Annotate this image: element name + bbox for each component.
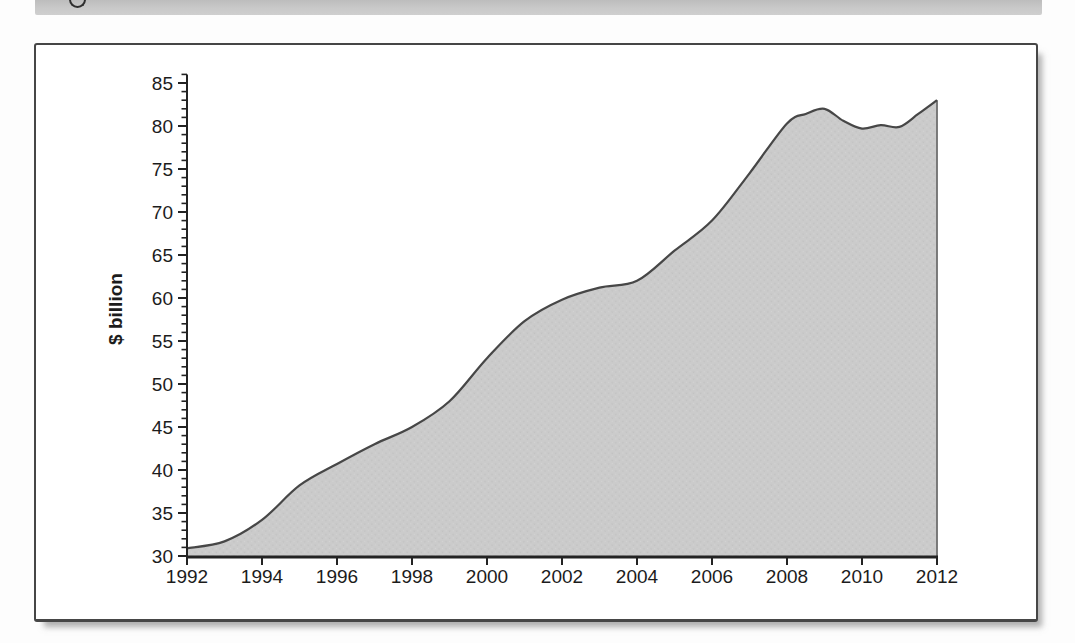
y-tick-label: 45 (152, 417, 173, 438)
area-fill (187, 100, 937, 556)
x-tick-label: 2004 (616, 566, 659, 587)
x-tick-label: 1996 (316, 566, 358, 587)
x-tick-label: 1992 (166, 566, 208, 587)
y-tick-label: 85 (152, 73, 173, 94)
x-tick-label: 2012 (916, 566, 958, 587)
x-tick-label: 2006 (691, 566, 733, 587)
y-axis-title: $ billion (105, 273, 126, 345)
chart-figure-box: 3035404550556065707580851992199419961998… (34, 43, 1038, 622)
x-tick-label: 2000 (466, 566, 508, 587)
y-tick-label: 80 (152, 116, 173, 137)
x-tick-label: 1994 (241, 566, 284, 587)
area-chart: 3035404550556065707580851992199419961998… (36, 45, 1036, 619)
y-tick-label: 55 (152, 331, 173, 352)
scan-top-band (35, 0, 1042, 15)
y-tick-label: 70 (152, 202, 173, 223)
y-tick-label: 75 (152, 159, 173, 180)
y-tick-label: 40 (152, 460, 173, 481)
x-tick-label: 2008 (766, 566, 808, 587)
y-tick-label: 35 (152, 503, 173, 524)
x-tick-label: 2010 (841, 566, 883, 587)
y-tick-label: 60 (152, 288, 173, 309)
y-tick-label: 65 (152, 245, 173, 266)
y-tick-label: 30 (152, 546, 173, 567)
x-tick-label: 2002 (541, 566, 583, 587)
y-tick-label: 50 (152, 374, 173, 395)
x-tick-label: 1998 (391, 566, 433, 587)
